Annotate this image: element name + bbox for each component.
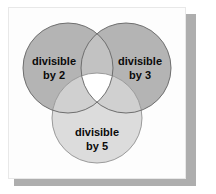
label-divisible-by-3-line1: divisible (118, 55, 162, 67)
label-divisible-by-5-line2: by 5 (86, 140, 108, 152)
label-divisible-by-2-line2: by 2 (43, 69, 65, 81)
diagram-panel: divisible by 2 divisible by 3 divisible … (8, 7, 186, 179)
label-divisible-by-3-line2: by 3 (129, 69, 151, 81)
label-divisible-by-5-line1: divisible (75, 126, 119, 138)
venn-diagram-svg: divisible by 2 divisible by 3 divisible … (9, 8, 185, 178)
label-divisible-by-2-line1: divisible (32, 55, 76, 67)
venn-diagram-figure: divisible by 2 divisible by 3 divisible … (0, 0, 216, 194)
